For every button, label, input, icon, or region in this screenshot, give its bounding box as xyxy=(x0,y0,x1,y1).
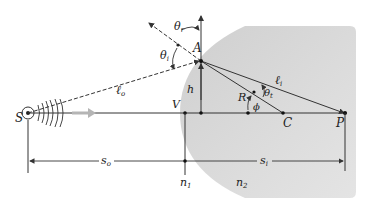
label-R: R xyxy=(237,91,246,104)
label-V: V xyxy=(172,98,181,111)
medium-n2-region xyxy=(180,26,356,198)
label-s-o: so xyxy=(101,154,111,168)
point-A xyxy=(199,59,203,63)
theta-i-arc xyxy=(173,48,177,69)
label-P: P xyxy=(335,116,345,130)
label-theta-r: θr xyxy=(174,20,185,34)
label-phi: ϕ xyxy=(253,101,260,112)
refraction-diagram: θr θi A ℓo h V R ϕ θt ℓi C P S so si n1 … xyxy=(0,0,367,206)
point-C xyxy=(281,111,285,115)
label-l-o: ℓo xyxy=(116,83,125,98)
label-A: A xyxy=(192,41,202,55)
propagation-arrow-icon xyxy=(72,108,96,118)
label-S: S xyxy=(15,111,23,125)
label-C: C xyxy=(283,116,292,130)
label-theta-i: θi xyxy=(160,49,169,63)
label-h: h xyxy=(187,83,194,96)
label-n1: n1 xyxy=(180,176,192,190)
